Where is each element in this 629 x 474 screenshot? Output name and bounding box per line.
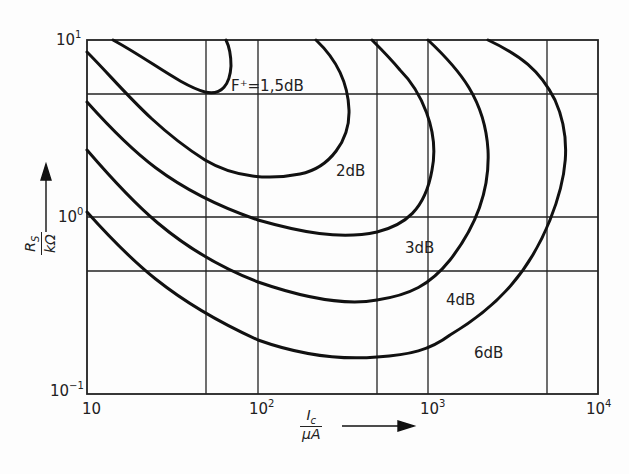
curve-label-2db: 2dB [336, 162, 365, 180]
x-axis-label: IcµA [300, 408, 322, 441]
curve-label-6db: 6dB [474, 344, 503, 362]
grid [87, 40, 598, 394]
x-axis-arrow-icon [398, 421, 414, 431]
y-axis-label: RSkΩ [22, 232, 58, 255]
curve-label-1-5db: F⁺=1,5dB [231, 77, 304, 95]
axis-arrows [41, 164, 414, 431]
y-tick-10-0: 100 [58, 210, 83, 225]
curve-2db [87, 40, 349, 177]
curve-6db [87, 40, 566, 358]
y-tick-10-minus1: 10−1 [50, 384, 84, 399]
curve-label-4db: 4dB [446, 291, 475, 309]
curve-1-5db [113, 40, 231, 93]
curves [87, 40, 566, 358]
x-tick-10: 10 [82, 402, 101, 417]
x-tick-10-2: 102 [249, 402, 274, 417]
x-tick-10-4: 104 [586, 402, 611, 417]
y-tick-10-1: 101 [56, 33, 81, 48]
y-axis-arrow-icon [41, 164, 51, 180]
x-tick-10-3: 103 [420, 402, 445, 417]
curve-label-3db: 3dB [405, 239, 434, 257]
